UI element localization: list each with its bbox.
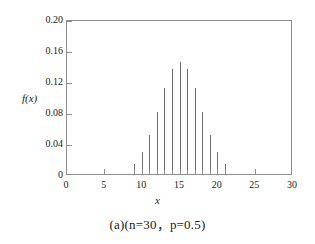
x-axis-tick-label: 10: [126, 180, 156, 190]
y-axis-tick-label: 0: [58, 170, 63, 180]
x-axis-minor-tick: [187, 170, 188, 174]
x-axis-tick-label: 20: [202, 180, 232, 190]
y-axis-tick: [67, 52, 72, 53]
y-axis-tick-label: 0.16: [46, 46, 64, 56]
x-axis-tick-label: 25: [239, 180, 269, 190]
y-axis-tick: [67, 114, 72, 115]
x-axis-minor-tick: [217, 170, 218, 174]
y-axis-tick: [67, 21, 72, 22]
y-axis-tick-label: 0.04: [46, 139, 64, 149]
bar: [157, 112, 158, 174]
plot-inner: [67, 21, 291, 174]
y-axis-tick-label: 0.20: [46, 15, 64, 25]
figure-caption: (a)(n=30，p=0.5): [0, 214, 315, 233]
y-axis-title: f(x): [22, 92, 37, 104]
bar: [187, 69, 188, 174]
x-axis-minor-tick: [202, 170, 203, 174]
x-axis-tick-label: 5: [89, 180, 119, 190]
bar: [195, 88, 196, 174]
x-axis-minor-tick: [180, 170, 181, 174]
x-axis-minor-tick: [157, 170, 158, 174]
x-axis-tick: [104, 169, 105, 174]
binomial-distribution-figure: f(x) x (a)(n=30，p=0.5) 00.040.080.120.16…: [0, 0, 315, 244]
y-axis-tick-label: 0.12: [46, 77, 64, 87]
x-axis-minor-tick: [149, 170, 150, 174]
x-axis-minor-tick: [142, 170, 143, 174]
x-axis-tick: [255, 169, 256, 174]
x-axis-tick-label: 0: [51, 180, 81, 190]
bar: [149, 135, 150, 174]
bar: [172, 69, 173, 174]
x-axis-minor-tick: [210, 170, 211, 174]
x-axis-minor-tick: [195, 170, 196, 174]
bar: [202, 112, 203, 174]
y-axis-tick: [67, 83, 72, 84]
x-axis-tick-label: 30: [277, 180, 307, 190]
bar: [164, 88, 165, 174]
x-axis-minor-tick: [172, 170, 173, 174]
x-axis-minor-tick: [164, 170, 165, 174]
plot-area: [66, 20, 292, 175]
x-axis-title: x: [0, 194, 315, 206]
x-axis-minor-tick: [134, 170, 135, 174]
y-axis-tick-label: 0.08: [46, 108, 64, 118]
x-axis-minor-tick: [225, 170, 226, 174]
x-axis-tick-label: 15: [164, 180, 194, 190]
bar: [180, 62, 181, 174]
bar: [210, 135, 211, 174]
y-axis-tick: [67, 145, 72, 146]
